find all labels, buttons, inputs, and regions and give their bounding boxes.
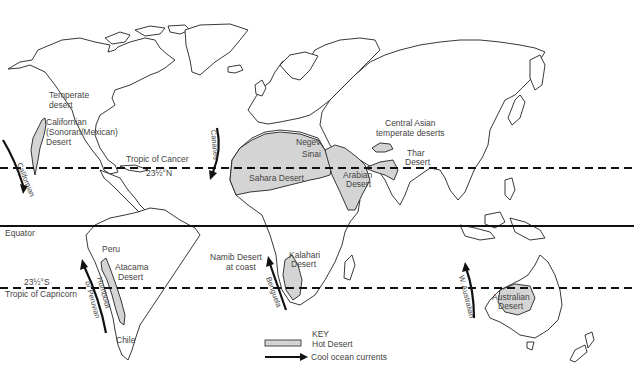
- arrowhead-icon: [300, 353, 308, 361]
- label-sahara: Sahara Desert: [249, 173, 304, 183]
- key-current-label: Cool ocean currents: [311, 352, 387, 362]
- label-temperate-desert-2: desert: [49, 100, 73, 110]
- tasmania: [527, 342, 534, 350]
- label-central-asian-1: Central Asian: [385, 118, 436, 128]
- key-title: KEY: [312, 329, 329, 339]
- label-californian-3: Desert: [46, 137, 72, 147]
- californian-desert: [31, 118, 46, 175]
- arrowhead-icon: [209, 170, 217, 180]
- label-tropic-cancer-deg: 23½°N: [146, 168, 172, 178]
- label-temperate-desert-1: Temperate: [49, 90, 89, 100]
- label-tropic-capricorn-deg: 23½°S: [24, 277, 50, 287]
- label-namib-1: Namib Desert: [210, 252, 263, 262]
- label-arabian-2: Desert: [346, 179, 372, 189]
- arrowhead-icon: [266, 256, 274, 267]
- japan: [508, 95, 525, 125]
- iceland: [228, 65, 243, 73]
- label-australian-2: Desert: [498, 301, 524, 311]
- map-key: KEY Hot Desert Cool ocean currents: [265, 329, 387, 362]
- label-atacama-2: Desert: [118, 272, 144, 282]
- label-current-canaries: Canaries: [209, 129, 221, 160]
- key-hot-desert-swatch: [265, 340, 301, 346]
- label-equator: Equator: [5, 228, 35, 238]
- world-desert-map: Temperate desert Californian (Sonoran/Me…: [0, 0, 634, 381]
- central-america: [100, 170, 145, 213]
- label-atacama-1: Atacama: [115, 262, 149, 272]
- label-tropic-capricorn: Tropic of Capricorn: [5, 289, 77, 299]
- label-chile: Chile: [116, 335, 136, 345]
- kamchatka: [530, 55, 545, 90]
- philippines: [505, 178, 515, 200]
- arrowhead-icon: [462, 262, 470, 272]
- label-namib-2: at coast: [226, 262, 256, 272]
- key-hot-desert-label: Hot Desert: [312, 339, 353, 349]
- label-tropic-cancer: Tropic of Cancer: [126, 154, 189, 164]
- label-peru: Peru: [102, 244, 120, 254]
- label-kalahari-2: Desert: [291, 259, 317, 269]
- label-thar-2: Desert: [405, 157, 431, 167]
- label-central-asian-2: temperate deserts: [376, 128, 445, 138]
- madagascar: [344, 255, 355, 280]
- label-californian-1: Californian: [46, 117, 87, 127]
- label-negev: Negev: [296, 137, 321, 147]
- label-sinai: Sinai: [302, 149, 321, 159]
- new-zealand: [570, 332, 594, 362]
- label-californian-2: (Sonoran/Mexican): [46, 127, 118, 137]
- arrowhead-icon: [80, 259, 88, 270]
